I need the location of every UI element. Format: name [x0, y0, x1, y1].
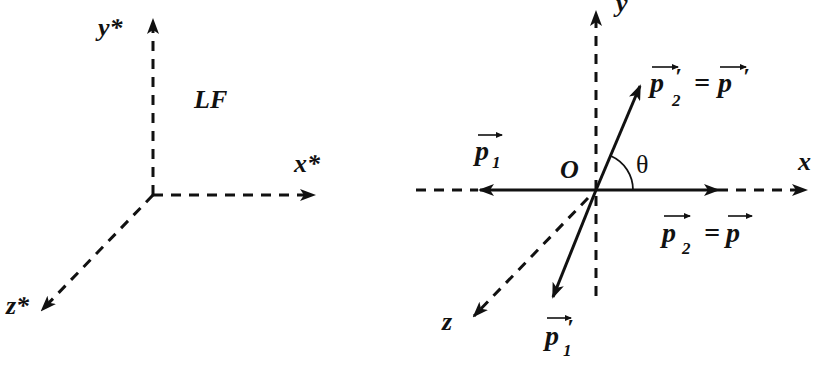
theta-label: θ — [636, 150, 648, 179]
svg-text:′: ′ — [675, 63, 682, 89]
p2-prime-vector — [596, 86, 640, 190]
p1-prime-vector — [553, 190, 596, 297]
lab-frame: y* LF x* z* — [5, 13, 321, 320]
p2-equals-p-label: p 2 = p — [660, 216, 752, 258]
x-axis-label: x — [797, 147, 811, 176]
z-axis — [474, 198, 588, 316]
origin-label: O — [560, 155, 579, 184]
svg-text:′: ′ — [567, 314, 574, 340]
z-star-label: z* — [5, 291, 30, 320]
svg-text:=: = — [704, 217, 720, 248]
svg-text:p: p — [648, 67, 664, 98]
y-star-label: y* — [95, 13, 124, 42]
z-axis-label: z — [441, 307, 453, 336]
p1-label: p 1 — [473, 135, 502, 172]
svg-text:=: = — [694, 67, 710, 98]
svg-text:2: 2 — [681, 239, 691, 258]
collision-diagram: y* LF x* z* y x z O θ p 1 — [0, 0, 823, 365]
center-of-mass-frame: y x z O θ p 1 p 2 = p p 2 ′ = p ′ — [416, 0, 811, 360]
svg-text:p: p — [660, 217, 676, 248]
p1-prime-label: p 1 ′ — [543, 314, 574, 360]
p2-prime-equals-p-prime-label: p 2 ′ = p ′ — [648, 63, 750, 110]
frame-label: LF — [193, 85, 227, 114]
svg-text:′: ′ — [743, 63, 750, 89]
svg-text:p: p — [716, 67, 732, 98]
svg-text:p: p — [724, 217, 740, 248]
svg-text:2: 2 — [671, 91, 681, 110]
theta-arc — [611, 156, 633, 190]
svg-text:1: 1 — [492, 153, 501, 172]
y-axis-label: y — [613, 0, 628, 18]
x-star-label: x* — [293, 149, 321, 178]
svg-text:p: p — [543, 320, 559, 351]
svg-text:p: p — [473, 135, 489, 166]
svg-text:1: 1 — [563, 341, 572, 360]
z-star-axis — [42, 195, 153, 310]
